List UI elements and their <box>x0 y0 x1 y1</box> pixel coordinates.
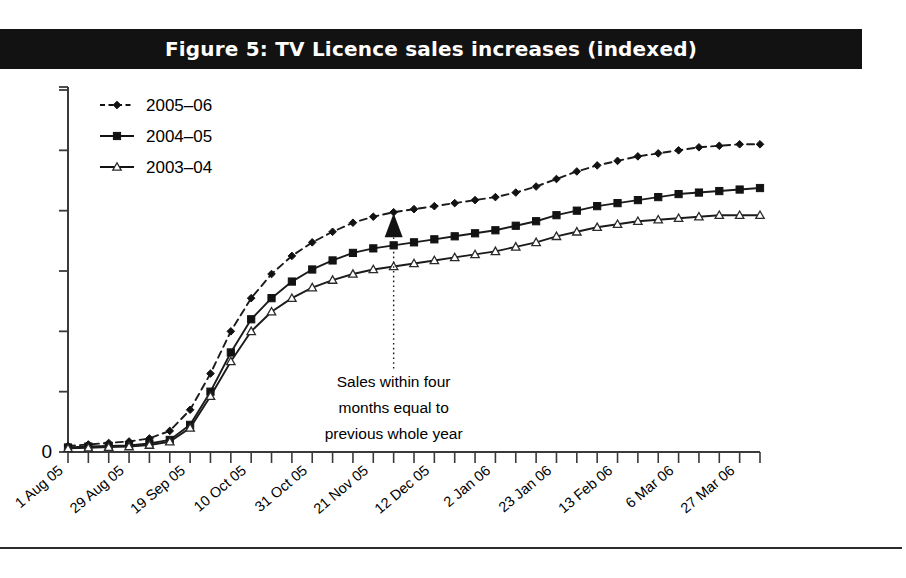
y-axis-tick-labels: 0 <box>41 441 52 462</box>
x-axis-tick-label: 1 Aug 05 <box>12 462 66 511</box>
chart-legend: 2005–062004–052003–04 <box>100 96 212 177</box>
data-point-marker-square <box>655 193 662 200</box>
x-axis-tick-label: 13 Feb 06 <box>555 462 615 516</box>
data-point-marker-square <box>288 278 295 285</box>
legend-item-2005-06[interactable]: 2005–06 <box>100 96 212 115</box>
annotation-line-3: previous whole year <box>325 425 463 442</box>
page-title: Figure 5: TV Licence sales increases (in… <box>165 37 697 61</box>
annotation-arrow-icon <box>385 213 403 237</box>
data-point-marker-diamond <box>532 183 540 191</box>
data-point-marker-square <box>248 316 255 323</box>
data-point-marker-diamond <box>675 147 683 155</box>
data-point-marker-diamond <box>614 157 622 165</box>
data-point-marker-diamond <box>512 189 520 197</box>
data-point-marker-diamond <box>471 196 479 204</box>
data-point-marker-diamond <box>227 328 235 336</box>
data-point-marker-square <box>227 349 234 356</box>
line-chart: Sales within four months equal to previo… <box>0 69 906 549</box>
legend-label: 2003–04 <box>146 158 212 177</box>
data-point-marker-diamond <box>113 101 121 109</box>
data-point-marker-square <box>329 257 336 264</box>
data-point-marker-square <box>512 222 519 229</box>
data-point-marker-diamond <box>349 219 357 227</box>
data-point-marker-diamond <box>654 150 662 158</box>
legend-item-2004-05[interactable]: 2004–05 <box>100 127 212 146</box>
data-point-marker-square <box>309 266 316 273</box>
data-point-marker-diamond <box>593 162 601 170</box>
y-axis-tick-label: 0 <box>41 441 52 462</box>
data-point-marker-diamond <box>756 141 764 149</box>
x-axis-tick-label: 31 Oct 05 <box>252 462 310 515</box>
data-point-marker-square <box>431 236 438 243</box>
data-point-marker-square <box>492 227 499 234</box>
data-point-marker-diamond <box>207 370 215 378</box>
x-axis-tick-label: 27 Mar 06 <box>677 462 737 516</box>
data-point-marker-diamond <box>492 193 500 201</box>
data-point-marker-square <box>594 203 601 210</box>
data-point-marker-diamond <box>715 142 723 150</box>
data-point-marker-square <box>736 186 743 193</box>
data-point-marker-square <box>370 245 377 252</box>
data-point-marker-square <box>349 249 356 256</box>
data-point-marker-diamond <box>451 199 459 207</box>
x-axis-tick-label: 23 Jan 06 <box>495 462 554 515</box>
figure-title-banner: Figure 5: TV Licence sales increases (in… <box>0 29 862 69</box>
bottom-divider <box>0 547 902 549</box>
x-axis-tick-label: 29 Aug 05 <box>67 462 127 516</box>
data-point-marker-square <box>716 187 723 194</box>
data-point-marker-square <box>113 132 120 139</box>
figure-container: Figure 5: TV Licence sales increases (in… <box>0 0 906 578</box>
data-point-marker-square <box>471 230 478 237</box>
legend-item-2003-04[interactable]: 2003–04 <box>100 158 212 177</box>
data-point-marker-square <box>451 233 458 240</box>
data-point-marker-square <box>573 207 580 214</box>
data-point-marker-diamond <box>410 205 418 213</box>
annotation-line-2: months equal to <box>338 399 448 416</box>
x-axis-tick-label: 6 Mar 06 <box>622 462 676 511</box>
data-point-marker-square <box>614 200 621 207</box>
x-axis-tick-label: 10 Oct 05 <box>191 462 249 515</box>
annotation-line-1: Sales within four <box>337 373 451 390</box>
x-axis-tick-label: 21 Nov 05 <box>310 462 371 517</box>
data-point-marker-square <box>756 184 763 191</box>
data-point-marker-square <box>553 212 560 219</box>
chart-plot-area: Sales within four months equal to previo… <box>0 69 906 549</box>
data-point-marker-square <box>533 218 540 225</box>
data-point-marker-diamond <box>553 175 561 183</box>
x-axis-tick-labels: 1 Aug 0529 Aug 0519 Sep 0510 Oct 0531 Oc… <box>12 462 738 517</box>
data-point-marker-square <box>634 197 641 204</box>
data-point-marker-diamond <box>369 213 377 221</box>
data-point-marker-square <box>695 189 702 196</box>
x-axis-tick-label: 2 Jan 06 <box>440 462 493 510</box>
data-point-marker-diamond <box>695 144 703 152</box>
x-axis-tick-label: 12 Dec 05 <box>371 462 432 517</box>
data-point-marker-square <box>268 295 275 302</box>
data-point-marker-diamond <box>736 141 744 149</box>
data-point-marker-square <box>410 239 417 246</box>
x-axis-tick-label: 19 Sep 05 <box>127 462 188 517</box>
data-point-marker-diamond <box>634 153 642 161</box>
legend-label: 2004–05 <box>146 127 212 146</box>
data-point-marker-diamond <box>573 168 581 176</box>
chart-annotation: Sales within four months equal to previo… <box>325 213 463 442</box>
data-point-marker-diamond <box>431 202 439 210</box>
data-point-marker-diamond <box>186 406 194 414</box>
legend-label: 2005–06 <box>146 96 212 115</box>
data-point-marker-diamond <box>329 228 337 236</box>
data-point-marker-square <box>675 190 682 197</box>
